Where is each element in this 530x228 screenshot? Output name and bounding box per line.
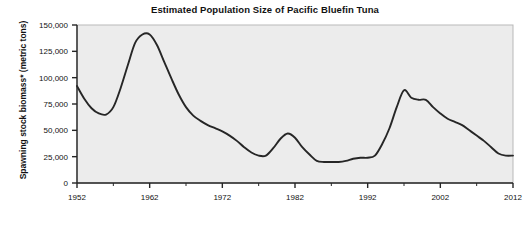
y-tick-label: 150,000 xyxy=(39,21,68,30)
x-tick-label: 1992 xyxy=(359,193,377,202)
x-tick-label: 1962 xyxy=(141,193,159,202)
y-axis-ticks: 025,00050,00075,000100,000125,000150,000 xyxy=(39,21,77,188)
x-tick-label: 1972 xyxy=(213,193,231,202)
x-tick-label: 1982 xyxy=(286,193,304,202)
plot-background xyxy=(77,25,513,183)
x-tick-label: 1952 xyxy=(68,193,86,202)
x-axis-ticks: 1952196219721982199220022012 xyxy=(68,183,522,202)
chart-figure: Estimated Population Size of Pacific Blu… xyxy=(0,0,530,228)
line-chart-plot: 025,00050,00075,000100,000125,000150,000… xyxy=(0,0,530,228)
y-tick-label: 75,000 xyxy=(44,100,69,109)
y-tick-label: 0 xyxy=(64,179,69,188)
x-tick-label: 2012 xyxy=(504,193,522,202)
y-tick-label: 125,000 xyxy=(39,47,68,56)
y-tick-label: 100,000 xyxy=(39,74,68,83)
x-tick-label: 2002 xyxy=(431,193,449,202)
y-tick-label: 25,000 xyxy=(44,153,69,162)
y-tick-label: 50,000 xyxy=(44,126,69,135)
